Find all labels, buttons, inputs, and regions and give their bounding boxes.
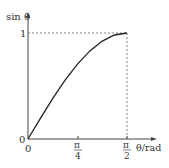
x-tick-label-pi2-den: 2 bbox=[124, 151, 130, 161]
x-tick-label-pi4-den: 4 bbox=[75, 151, 81, 161]
y-tick-label-1: 1 bbox=[20, 28, 26, 39]
x-tick-label-pi2-num: π bbox=[123, 140, 129, 150]
x-axis-arrow-icon bbox=[151, 137, 157, 141]
x-tick-label-0: 0 bbox=[25, 143, 31, 154]
x-tick-label-pi4-num: π bbox=[74, 140, 80, 150]
x-axis-label: θ/rad bbox=[136, 142, 161, 153]
sin-curve bbox=[28, 33, 127, 139]
y-axis-label: sin θ bbox=[6, 11, 30, 22]
chart: sin θ 1 0 0 π 4 π 2 θ/rad bbox=[0, 0, 169, 168]
